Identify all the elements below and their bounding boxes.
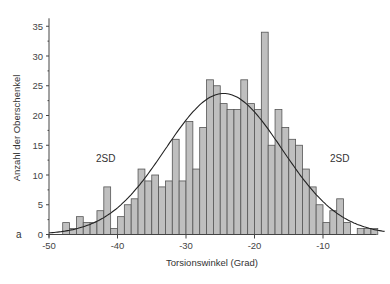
y-tick-label: 5 bbox=[38, 199, 43, 210]
histogram-bar bbox=[275, 110, 282, 235]
histogram-bar bbox=[186, 121, 193, 234]
y-tick-label: 35 bbox=[32, 21, 43, 32]
histogram-bar bbox=[172, 139, 179, 234]
histogram-bar bbox=[227, 110, 234, 235]
histogram-bar bbox=[330, 211, 337, 235]
histogram-bar bbox=[104, 187, 111, 235]
x-tick-label: -50 bbox=[42, 240, 56, 251]
y-tick-label: 10 bbox=[32, 170, 43, 181]
x-axis-title: Torsionswinkel (Grad) bbox=[166, 257, 258, 268]
y-axis-title: Anzahl der Oberschenkel bbox=[11, 75, 22, 182]
histogram-bar bbox=[213, 86, 220, 235]
histogram-bar bbox=[289, 139, 296, 234]
x-tick-label: -20 bbox=[248, 240, 262, 251]
histogram-bar bbox=[124, 205, 131, 235]
histogram-bar bbox=[131, 199, 138, 235]
histogram-bars bbox=[63, 32, 378, 234]
histogram-bar bbox=[118, 217, 125, 235]
histogram-bar bbox=[296, 145, 303, 234]
histogram-bar bbox=[145, 181, 152, 235]
x-tick-label: -40 bbox=[111, 240, 125, 251]
histogram-bar bbox=[179, 181, 186, 235]
x-tick-label: -10 bbox=[316, 240, 330, 251]
annotation-2sd-left: 2SD bbox=[96, 153, 115, 164]
histogram-bar bbox=[364, 229, 371, 235]
histogram-bar bbox=[261, 32, 268, 234]
y-tick-label: 30 bbox=[32, 51, 43, 62]
histogram-chart: 05101520253035-50-40-30-20-10 Torsionswi… bbox=[0, 0, 390, 284]
histogram-bar bbox=[241, 80, 248, 235]
histogram-bar bbox=[207, 80, 214, 235]
histogram-bar bbox=[344, 223, 351, 235]
histogram-bar bbox=[76, 217, 83, 235]
histogram-bar bbox=[200, 127, 207, 234]
histogram-bar bbox=[97, 211, 104, 235]
histogram-bar bbox=[220, 104, 227, 235]
histogram-bar bbox=[63, 223, 70, 235]
x-tick-label: -30 bbox=[179, 240, 193, 251]
annotation-2sd-right: 2SD bbox=[330, 153, 349, 164]
histogram-bar bbox=[323, 223, 330, 235]
y-tick-label: 25 bbox=[32, 80, 43, 91]
histogram-bar bbox=[268, 145, 275, 234]
y-tick-label: 15 bbox=[32, 140, 43, 151]
histogram-bar bbox=[193, 169, 200, 234]
histogram-bar bbox=[165, 181, 172, 235]
panel-label: a bbox=[16, 229, 22, 240]
histogram-bar bbox=[111, 229, 118, 235]
histogram-bar bbox=[282, 127, 289, 234]
histogram-bar bbox=[152, 175, 159, 235]
histogram-bar bbox=[234, 110, 241, 235]
histogram-bar bbox=[248, 104, 255, 235]
histogram-bar bbox=[159, 187, 166, 235]
y-tick-label: 0 bbox=[38, 229, 43, 240]
histogram-bar bbox=[357, 229, 364, 235]
histogram-bar bbox=[255, 110, 262, 235]
y-tick-label: 20 bbox=[32, 110, 43, 121]
histogram-bar bbox=[316, 205, 323, 235]
